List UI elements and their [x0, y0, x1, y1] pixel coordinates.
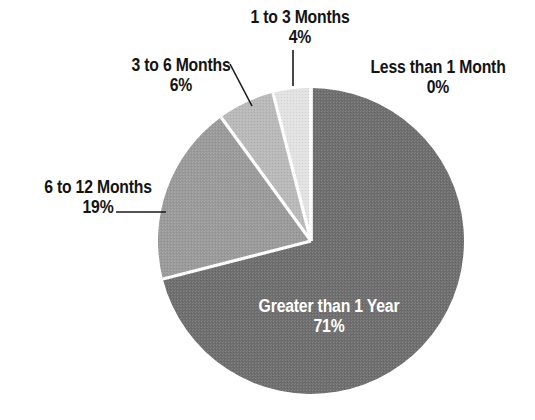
slice-value-3-to-6-months: 6%: [101, 76, 261, 96]
halftone-texture: [150, 80, 480, 405]
slice-label-less-than-1-month: Less than 1 Month 0%: [350, 58, 526, 97]
slice-value-6-to-12-months: 19%: [17, 198, 179, 218]
slice-label-name-less-than-1-month: Less than 1 Month: [370, 57, 505, 77]
slice-label-greater-than-1-year: Greater than 1 Year 71%: [233, 297, 426, 336]
slice-label-name-6-to-12-months: 6 to 12 Months: [44, 177, 152, 197]
slice-value-greater-than-1-year: 71%: [233, 317, 426, 337]
pie-chart: Less than 1 Month 0% 1 to 3 Months 4% 3 …: [0, 0, 535, 420]
slice-label-name-3-to-6-months: 3 to 6 Months: [131, 55, 230, 75]
slice-label-name-1-to-3-months: 1 to 3 Months: [250, 7, 349, 27]
slice-value-1-to-3-months: 4%: [210, 28, 390, 48]
slice-label-name-greater-than-1-year: Greater than 1 Year: [259, 296, 400, 316]
slice-label-6-to-12-months: 6 to 12 Months 19%: [17, 178, 179, 217]
slice-value-less-than-1-month: 0%: [350, 78, 526, 98]
slice-label-1-to-3-months: 1 to 3 Months 4%: [210, 8, 390, 47]
slice-label-3-to-6-months: 3 to 6 Months 6%: [101, 56, 261, 95]
